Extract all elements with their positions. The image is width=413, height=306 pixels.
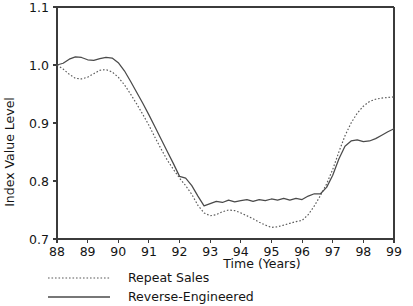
x-tick-label: 99	[386, 244, 402, 259]
chart-series-group	[57, 57, 394, 228]
y-tick-label: 1.1	[29, 0, 49, 15]
chart-legend: Repeat SalesReverse-Engineered	[48, 270, 254, 304]
chart-axes	[57, 7, 394, 239]
legend-label: Repeat Sales	[128, 270, 209, 285]
index-value-line-chart: 0.70.80.91.01.1 888990919293949596979899…	[0, 0, 413, 306]
x-tick-label: 92	[172, 244, 188, 259]
chart-figure: 0.70.80.91.01.1 888990919293949596979899…	[0, 0, 413, 306]
y-tick-label: 0.7	[29, 232, 49, 247]
y-tick-label: 0.9	[29, 116, 49, 131]
x-tick-label: 93	[202, 244, 218, 259]
y-tick-label: 1.0	[29, 58, 49, 73]
series-line-repeat-sales	[57, 65, 394, 227]
x-tick-label: 89	[80, 244, 96, 259]
x-axis-title: Time (Years)	[222, 256, 300, 271]
x-tick-label: 88	[49, 244, 65, 259]
x-tick-label: 90	[110, 244, 126, 259]
x-tick-label: 91	[141, 244, 157, 259]
y-axis-title: Index Value Level	[2, 97, 17, 207]
x-tick-label: 97	[325, 244, 341, 259]
x-tick-label: 98	[355, 244, 371, 259]
y-tick-label: 0.8	[29, 174, 49, 189]
y-axis-ticks: 0.70.80.91.01.1	[29, 0, 57, 247]
legend-label: Reverse-Engineered	[128, 289, 254, 304]
series-line-reverse-engineered	[57, 57, 394, 206]
